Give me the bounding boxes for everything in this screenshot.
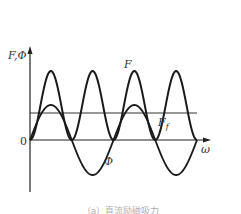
curve-ff-label: Ff <box>158 117 169 131</box>
x-axis-label: ω <box>201 144 210 155</box>
curve-phi-label: Φ <box>104 156 113 167</box>
curve-ff-label-main: F <box>158 116 166 129</box>
origin-label: 0 <box>20 136 27 147</box>
y-axis-arrow-icon <box>28 46 33 54</box>
chart-canvas <box>0 0 241 214</box>
curve-f <box>30 71 197 140</box>
figure-caption: （a）直流励磁吸力 <box>0 207 241 214</box>
curve-f-label: F <box>124 59 132 70</box>
curve-ff-label-sub: f <box>166 122 169 131</box>
y-axis-label: F,Φ <box>8 50 26 61</box>
x-axis-arrow-icon <box>203 138 211 143</box>
